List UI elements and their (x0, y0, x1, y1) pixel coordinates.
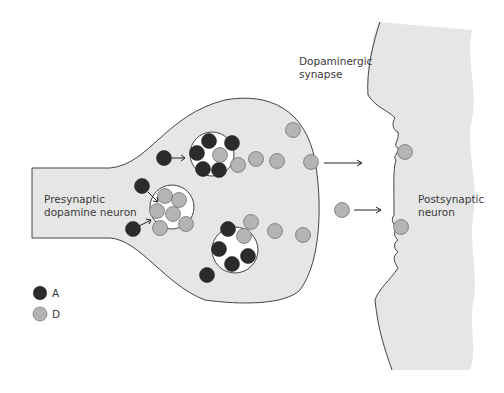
postsynaptic-label-line2: neuron (418, 206, 484, 219)
presynaptic-label: Presynaptic dopamine neuron (44, 193, 137, 219)
legend-a-label: A (52, 287, 59, 300)
postsynaptic-label: Postsynaptic neuron (418, 193, 484, 219)
legend-a-swatch (33, 286, 47, 300)
presynaptic-label-line2: dopamine neuron (44, 206, 137, 219)
synapse-label-line2: synapse (299, 68, 372, 81)
synapse-label-line1: Dopaminergic (299, 55, 372, 68)
presynaptic-label-line1: Presynaptic (44, 193, 137, 206)
postsynaptic-label-line1: Postsynaptic (418, 193, 484, 206)
synapse-label: Dopaminergic synapse (299, 55, 372, 81)
legend-d-label: D (52, 308, 60, 321)
legend-d-swatch (33, 307, 47, 321)
